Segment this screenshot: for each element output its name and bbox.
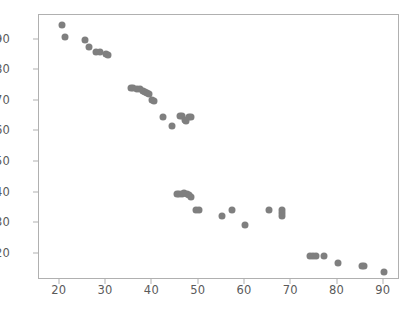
data-point xyxy=(105,51,112,58)
data-point xyxy=(185,191,192,198)
data-point xyxy=(229,207,236,214)
x-tick-label: 50 xyxy=(190,283,205,297)
data-point xyxy=(176,190,183,197)
data-point xyxy=(168,123,175,130)
data-point xyxy=(148,96,155,103)
data-point xyxy=(219,213,226,220)
data-point xyxy=(334,260,341,267)
x-tick-label: 60 xyxy=(236,283,251,297)
scatter-plot-figure: 20304050607080902030405060708090 xyxy=(0,0,417,312)
data-point xyxy=(103,50,110,57)
y-tick-label: 40 xyxy=(0,185,10,199)
data-point xyxy=(181,189,188,196)
x-tick-label: 90 xyxy=(375,283,390,297)
data-point xyxy=(133,85,140,92)
data-point xyxy=(58,22,65,29)
x-tick-mark xyxy=(105,279,106,284)
data-point xyxy=(177,113,184,120)
data-point xyxy=(183,190,190,197)
x-tick-mark xyxy=(336,279,337,284)
y-tick-label: 70 xyxy=(0,93,10,107)
y-tick-label: 60 xyxy=(0,123,10,137)
data-point xyxy=(306,253,313,260)
data-point xyxy=(183,118,190,125)
data-point xyxy=(130,84,137,91)
x-tick-mark xyxy=(197,279,198,284)
data-point xyxy=(188,193,195,200)
data-point xyxy=(127,84,134,91)
data-point xyxy=(309,253,316,260)
data-point xyxy=(182,117,189,124)
y-tick-label: 80 xyxy=(0,62,10,76)
data-point xyxy=(160,114,167,121)
x-tick-mark xyxy=(58,279,59,284)
x-tick-mark xyxy=(151,279,152,284)
y-tick-label: 20 xyxy=(0,246,10,260)
x-tick-mark xyxy=(243,279,244,284)
data-point xyxy=(195,207,202,214)
data-point xyxy=(141,88,148,95)
data-point xyxy=(173,190,180,197)
data-point xyxy=(185,114,192,121)
data-point xyxy=(85,43,92,50)
x-tick-label: 20 xyxy=(51,283,66,297)
data-point xyxy=(93,48,100,55)
data-point xyxy=(136,86,143,93)
data-point xyxy=(144,89,151,96)
data-point xyxy=(192,207,199,214)
x-tick-label: 40 xyxy=(144,283,159,297)
data-point xyxy=(146,90,153,97)
data-point xyxy=(358,263,365,270)
data-point xyxy=(266,207,273,214)
data-point xyxy=(61,34,68,41)
y-tick-label: 30 xyxy=(0,215,10,229)
x-tick-label: 70 xyxy=(283,283,298,297)
data-point xyxy=(96,48,103,55)
data-point xyxy=(312,253,319,260)
x-tick-label: 30 xyxy=(98,283,113,297)
data-point xyxy=(241,222,248,229)
plot-area xyxy=(38,14,399,279)
data-point xyxy=(178,190,185,197)
data-point xyxy=(188,114,195,121)
data-point xyxy=(150,97,157,104)
data-point xyxy=(380,269,387,276)
data-point xyxy=(361,263,368,270)
x-tick-mark xyxy=(290,279,291,284)
y-tick-label: 90 xyxy=(0,32,10,46)
data-point xyxy=(81,37,88,44)
data-point xyxy=(278,207,285,214)
data-point xyxy=(321,253,328,260)
data-point xyxy=(279,210,286,217)
data-point xyxy=(139,87,146,94)
x-tick-mark xyxy=(382,279,383,284)
x-tick-label: 80 xyxy=(329,283,344,297)
y-tick-label: 50 xyxy=(0,154,10,168)
data-point xyxy=(179,113,186,120)
data-point xyxy=(279,213,286,220)
